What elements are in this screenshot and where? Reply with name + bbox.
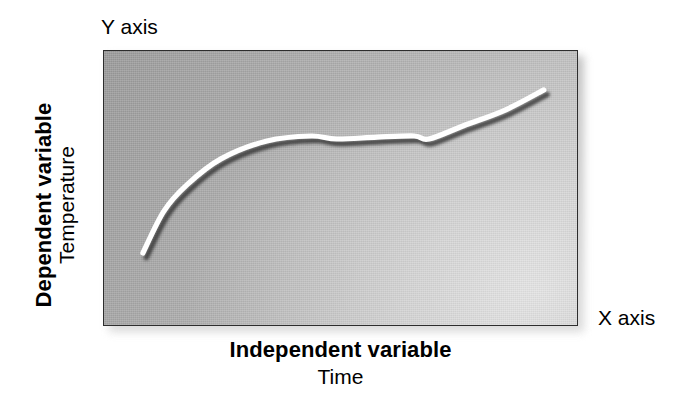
y-axis-label-group: Dependent variable Temperature (27, 65, 85, 345)
plot-panel (103, 50, 578, 326)
time-label: Time (103, 365, 578, 389)
temperature-label: Temperature (55, 146, 79, 264)
x-axis-tag: X axis (598, 307, 655, 328)
plot-panel-wrapper (103, 50, 578, 326)
figure-container: Y axis X axis Dependent variable Tempera… (0, 0, 689, 409)
dependent-variable-label: Dependent variable (32, 103, 55, 308)
x-axis-label-group: Independent variable Time (103, 338, 578, 389)
y-axis-tag: Y axis (101, 16, 158, 37)
plot-curve-svg (104, 51, 578, 326)
temperature-curve (143, 90, 544, 253)
independent-variable-label: Independent variable (103, 338, 578, 363)
